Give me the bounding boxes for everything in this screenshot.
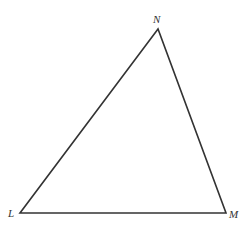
vertex-label-l: L	[7, 207, 14, 219]
triangle-lmn	[20, 29, 226, 213]
vertex-label-n: N	[152, 13, 161, 25]
vertex-label-m: M	[228, 208, 239, 220]
triangle-diagram: N L M	[0, 0, 252, 229]
